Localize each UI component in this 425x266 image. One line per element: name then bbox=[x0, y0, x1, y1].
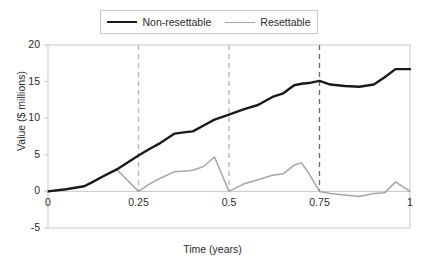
chart-figure: Non-resettable Resettable Value ($ milli… bbox=[0, 0, 425, 266]
chart-plot-area bbox=[0, 0, 425, 266]
y-tick-label--5: -5 bbox=[4, 221, 40, 233]
x-tick-label-0.75: 0.75 bbox=[300, 196, 340, 208]
x-tick-label-0: 0 bbox=[28, 196, 68, 208]
x-axis-title: Time (years) bbox=[0, 243, 425, 255]
y-tick-label-10: 10 bbox=[4, 111, 40, 123]
x-tick-label-1: 1 bbox=[390, 196, 425, 208]
y-tick-label-0: 0 bbox=[4, 184, 40, 196]
y-tick-label-20: 20 bbox=[4, 38, 40, 50]
x-tick-label-0.25: 0.25 bbox=[119, 196, 159, 208]
y-tick-label-5: 5 bbox=[4, 148, 40, 160]
y-tick-label-15: 15 bbox=[4, 75, 40, 87]
x-tick-label-0.5: 0.5 bbox=[209, 196, 249, 208]
